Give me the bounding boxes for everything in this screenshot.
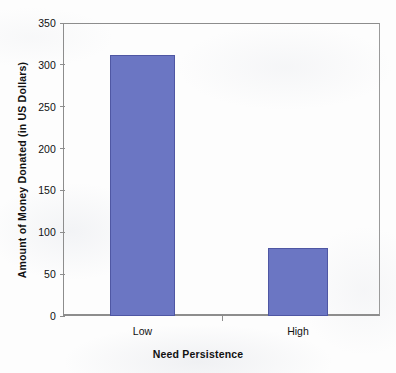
y-axis-tick: 350 (38, 17, 64, 29)
y-axis-tick: 0 (50, 310, 64, 322)
y-axis-tick-label: 100 (38, 226, 60, 238)
y-axis-tick-mark (60, 274, 65, 275)
y-axis-tick-mark (60, 148, 65, 149)
y-axis-tick-mark (60, 23, 65, 24)
y-axis-tick-label: 150 (38, 184, 60, 196)
y-axis-title: Amount of Money Donated (in US Dollars) (16, 61, 28, 278)
bar-high (268, 248, 328, 316)
y-axis-tick: 50 (44, 268, 64, 280)
plot-area: 050100150200250300350 (64, 23, 380, 316)
y-axis-tick: 250 (38, 101, 64, 113)
y-axis-tick-label: 300 (38, 59, 60, 71)
bar-chart-figure: Amount of Money Donated (in US Dollars) … (0, 0, 396, 373)
y-axis-tick-label: 50 (44, 268, 60, 280)
y-axis-tick: 150 (38, 184, 64, 196)
x-axis-label-low: Low (133, 325, 152, 337)
x-axis-title: Need Persistence (0, 348, 396, 360)
y-axis-tick-mark (60, 232, 65, 233)
y-axis-tick-label: 200 (38, 143, 60, 155)
bar-low (110, 55, 175, 316)
x-axis-label-high: High (287, 325, 309, 337)
y-axis-tick: 300 (38, 59, 64, 71)
y-axis-tick: 200 (38, 143, 64, 155)
y-axis-tick-label: 350 (38, 17, 60, 29)
y-axis-tick-mark (60, 190, 65, 191)
y-axis-tick-label: 0 (50, 310, 60, 322)
y-axis-tick-mark (60, 316, 65, 317)
x-axis-tick-mark (222, 316, 223, 321)
y-axis-tick-mark (60, 106, 65, 107)
y-axis-tick: 100 (38, 226, 64, 238)
y-axis-tick-mark (60, 64, 65, 65)
y-axis-tick-label: 250 (38, 101, 60, 113)
